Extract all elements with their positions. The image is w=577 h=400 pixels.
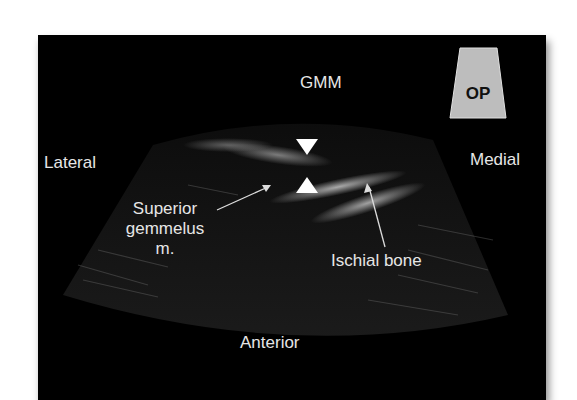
- label-line: Superior: [115, 199, 215, 219]
- probe-label: OP: [456, 84, 500, 104]
- probe-orientation-badge: [449, 47, 507, 119]
- label-ischial-bone: Ischial bone: [331, 251, 422, 271]
- label-gmm: GMM: [300, 73, 342, 93]
- label-superior-gemmelus: Superior gemmelus m.: [115, 199, 215, 259]
- label-line: m.: [115, 239, 215, 259]
- label-line: gemmelus: [115, 219, 215, 239]
- label-lateral: Lateral: [44, 153, 96, 173]
- label-medial: Medial: [470, 150, 520, 170]
- label-anterior: Anterior: [240, 333, 300, 353]
